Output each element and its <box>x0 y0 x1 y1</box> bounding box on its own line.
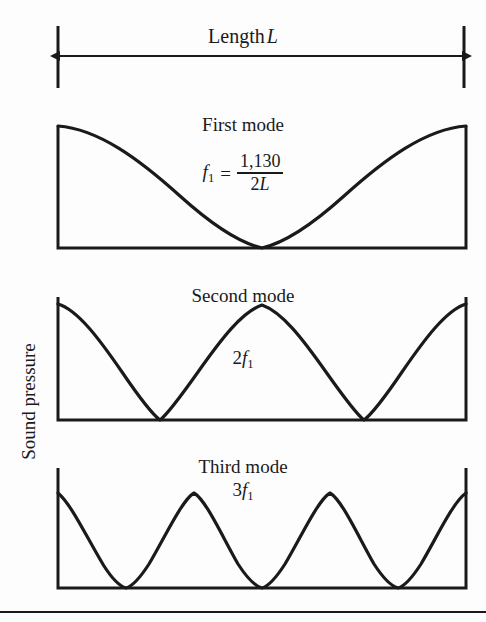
dimension-label: LengthL <box>0 26 486 46</box>
formula-expression: f1 = 1,130 2L <box>203 152 284 194</box>
figure-drawing-canvas <box>0 0 486 622</box>
second-mode-coefficient: 2 <box>232 347 242 368</box>
pressure-curve-third <box>58 493 466 588</box>
dimension-label-variable: L <box>265 25 278 47</box>
third-mode-subscript: 1 <box>247 489 253 503</box>
mode-title-first: First mode <box>0 115 486 134</box>
formula-equals-sign: = <box>219 164 232 183</box>
second-mode-subscript: 1 <box>247 357 253 371</box>
formula-numerator: 1,130 <box>237 152 284 172</box>
formula-denominator: 2L <box>248 174 273 194</box>
y-axis-label: Sound pressure <box>19 312 38 492</box>
mode-title-third: Third mode <box>0 457 486 476</box>
dimension-label-text: Length <box>208 25 265 47</box>
standing-wave-modes-figure: LengthL First mode f1 = 1,130 2L Second … <box>0 0 486 622</box>
second-mode-frequency-label: 2f1 <box>0 348 486 370</box>
mode-title-second: Second mode <box>0 286 486 305</box>
formula-left-side: f1 <box>203 162 215 184</box>
third-mode-coefficient: 3 <box>232 479 242 500</box>
first-mode-frequency-formula: f1 = 1,130 2L <box>0 152 486 194</box>
third-mode-frequency-label: 3f1 <box>0 480 486 502</box>
formula-fraction: 1,130 2L <box>237 152 284 194</box>
